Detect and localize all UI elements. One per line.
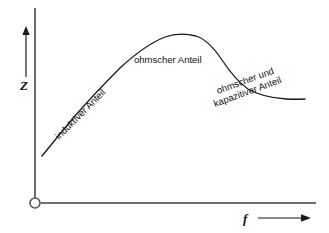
- y-axis-label: Z: [19, 78, 28, 93]
- origin-circle: [30, 198, 40, 208]
- z-axis-arrow-head: [22, 26, 29, 35]
- x-axis-label: f: [243, 211, 249, 226]
- impedance-frequency-diagram: induktiver Anteil ohmscher Anteil ohmsch…: [0, 0, 329, 233]
- label-ohmscher-anteil: ohmscher Anteil: [134, 54, 202, 65]
- figure-canvas: induktiver Anteil ohmscher Anteil ohmsch…: [0, 0, 329, 233]
- label-induktiver-anteil: induktiver Anteil: [53, 87, 108, 142]
- f-axis-arrow-head: [301, 214, 311, 222]
- impedance-curve: [42, 34, 305, 156]
